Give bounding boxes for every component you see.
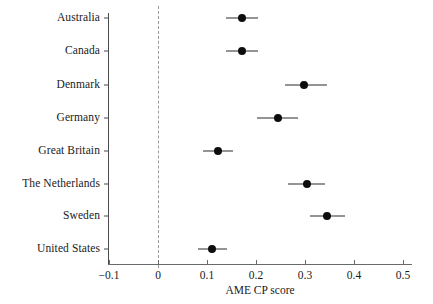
x-axis-tick-label: 0.5	[396, 270, 410, 282]
category-label-great-britain: Great Britain	[0, 145, 100, 157]
data-point-marker	[238, 47, 246, 55]
y-axis-tick	[104, 151, 109, 152]
x-axis-tick	[256, 260, 257, 264]
x-axis-tick	[354, 260, 355, 264]
data-point-marker	[323, 212, 331, 220]
x-axis-tick	[158, 260, 159, 264]
data-point-marker	[300, 81, 308, 89]
data-point-marker	[303, 180, 311, 188]
zero-reference-line	[158, 6, 159, 268]
category-label-united-states: United States	[0, 243, 100, 255]
x-axis-tick-label: 0.1	[200, 270, 214, 282]
y-axis-tick	[104, 249, 109, 250]
category-label-australia: Australia	[0, 12, 100, 24]
x-axis-tick-label: 0.4	[347, 270, 361, 282]
data-point-marker	[214, 147, 222, 155]
x-axis-tick-label: −0.1	[99, 270, 120, 282]
category-label-the-netherlands: The Netherlands	[0, 178, 100, 190]
x-axis-tick	[207, 260, 208, 264]
category-label-canada: Canada	[0, 45, 100, 57]
x-axis-title: AME CP score	[225, 285, 294, 297]
y-axis-tick	[104, 51, 109, 52]
category-label-denmark: Denmark	[0, 79, 100, 91]
x-axis-tick-label: 0.2	[249, 270, 263, 282]
data-point-marker	[238, 14, 246, 22]
plot-area: −0.100.10.20.30.40.5AME CP scoreAustrali…	[0, 0, 433, 304]
y-axis-tick	[104, 118, 109, 119]
data-point-marker	[274, 114, 282, 122]
data-point-marker	[208, 245, 216, 253]
y-axis-tick	[104, 184, 109, 185]
x-axis-tick	[305, 260, 306, 264]
x-axis-line	[108, 264, 412, 265]
x-axis-tick	[109, 260, 110, 264]
x-axis-tick-label: 0.3	[298, 270, 312, 282]
y-axis-tick	[104, 18, 109, 19]
y-axis-tick	[104, 85, 109, 86]
forest-plot-figure: −0.100.10.20.30.40.5AME CP scoreAustrali…	[0, 0, 433, 304]
y-axis-tick	[104, 216, 109, 217]
x-axis-tick	[403, 260, 404, 264]
category-label-sweden: Sweden	[0, 210, 100, 222]
category-label-germany: Germany	[0, 112, 100, 124]
x-axis-tick-label: 0	[155, 270, 161, 282]
